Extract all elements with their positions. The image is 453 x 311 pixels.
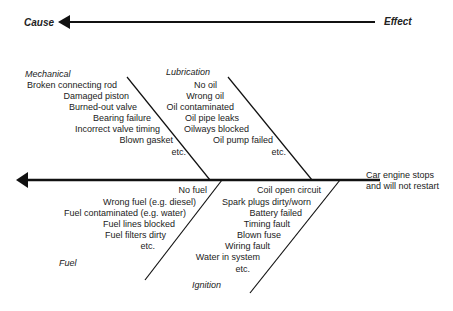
fuel-item: Wrong fuel (e.g. diesel) <box>103 197 196 208</box>
fuel-item: Fuel contaminated (e.g. water) <box>64 208 186 219</box>
fuel-item: Fuel lines blocked <box>103 219 175 230</box>
fuel-title: Fuel <box>59 258 77 269</box>
fuel-item: etc. <box>140 241 155 252</box>
mechanical-item: Blown gasket <box>119 135 173 146</box>
mechanical-item: Incorrect valve timing <box>75 124 160 135</box>
ignition-item: Battery failed <box>249 208 302 219</box>
mechanical-item: etc. <box>171 147 186 158</box>
effect-label: Effect <box>384 16 412 27</box>
mechanical-item: Broken connecting rod <box>27 80 117 91</box>
cause-arrowhead-icon <box>58 15 70 29</box>
cause-label: Cause <box>24 17 54 28</box>
ignition-item: Spark plugs dirty/worn <box>222 197 311 208</box>
lubrication-item: Oil pipe leaks <box>185 113 239 124</box>
ignition-item: Wiring fault <box>225 241 270 252</box>
lubrication-item: Wrong oil <box>186 91 224 102</box>
lubrication-title: Lubrication <box>166 67 210 78</box>
mechanical-item: Damaged piston <box>63 91 129 102</box>
lubrication-item: Oil pump failed <box>213 135 273 146</box>
mechanical-title: Mechanical <box>25 69 71 80</box>
lubrication-item: No oil <box>194 80 217 91</box>
spine-arrowhead-icon <box>16 172 28 188</box>
ignition-item: Blown fuse <box>237 230 281 241</box>
ignition-title: Ignition <box>192 280 221 291</box>
mechanical-item: Burned-out valve <box>69 102 137 113</box>
fuel-item: No fuel <box>178 185 207 196</box>
lubrication-item: Oilways blocked <box>184 124 249 135</box>
lubrication-item: etc. <box>271 147 286 158</box>
ignition-item: Timing fault <box>244 219 290 230</box>
ignition-item: etc. <box>235 264 250 275</box>
ignition-item: Coil open circuit <box>257 185 321 196</box>
fuel-item: Fuel filters dirty <box>105 230 166 241</box>
lubrication-item: Oil contaminated <box>166 102 234 113</box>
ignition-item: Water in system <box>196 252 260 263</box>
effect-text-line2: and will not restart <box>366 181 439 192</box>
mechanical-item: Bearing failure <box>93 113 151 124</box>
effect-text-line1: Car engine stops <box>366 170 434 181</box>
